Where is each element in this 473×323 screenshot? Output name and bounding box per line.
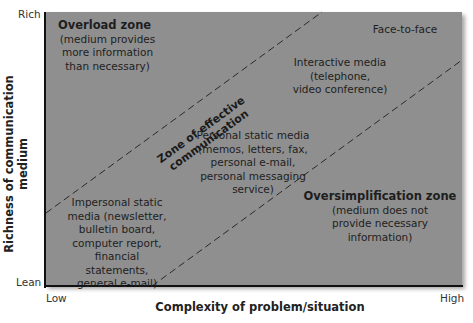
y-axis-label: Richness of communication medium [2,74,30,254]
personal-static-line-2: (memos, letters, fax, [188,143,318,157]
personal-static-line-1: Personal static media [188,129,318,143]
overload-zone-desc-2: more information [50,46,165,60]
overload-zone-desc-3: than necessary) [50,60,165,74]
oversimplification-desc-3: information) [300,231,460,245]
impersonal-static-line-6: general e-mail) [62,277,172,291]
impersonal-static-line-2: media (newsletter, [62,210,172,224]
personal-static-line-4: personal messaging [188,170,318,184]
impersonal-static-media: Impersonal static media (newsletter, bul… [62,196,172,291]
personal-static-line-5: service) [188,183,318,197]
impersonal-static-line-1: Impersonal static [62,196,172,210]
interactive-media-line-2: (telephone, [285,70,395,84]
interactive-media: Interactive media (telephone, video conf… [285,56,395,97]
y-tick-rich: Rich [18,8,41,20]
x-tick-high: High [440,292,464,304]
personal-static-line-3: personal e-mail, [188,156,318,170]
face-to-face-label: Face-to-face [360,23,450,37]
overload-zone: Overload zone (medium provides more info… [50,19,165,73]
oversimplification-desc-1: (medium does not [300,204,460,218]
impersonal-static-line-5: financial statements, [62,250,172,277]
x-tick-low: Low [46,292,67,304]
overload-zone-desc-1: (medium provides [50,33,165,47]
overload-zone-title: Overload zone [50,19,165,33]
oversimplification-desc-2: provide necessary [300,217,460,231]
interactive-media-line-1: Interactive media [285,56,395,70]
y-axis [44,12,46,288]
x-axis-label: Complexity of problem/situation [150,300,370,314]
y-tick-lean: Lean [16,276,41,288]
oversimplification-zone: Oversimplification zone (medium does not… [300,190,460,244]
personal-static-media: Personal static media (memos, letters, f… [188,129,318,197]
oversimplification-zone-title: Oversimplification zone [300,190,460,204]
impersonal-static-line-3: bulletin board, [62,223,172,237]
interactive-media-line-3: video conference) [285,83,395,97]
impersonal-static-line-4: computer report, [62,237,172,251]
